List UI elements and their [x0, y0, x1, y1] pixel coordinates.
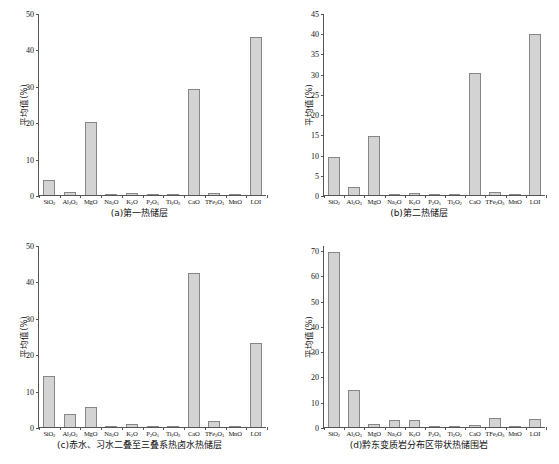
bar-slot: [60, 14, 81, 195]
bar-slot: [163, 246, 184, 427]
panel-caption-b: (b)第二热储层: [279, 206, 559, 219]
x-axis-label-MgO: MgO: [80, 430, 101, 437]
bar-slot: [101, 246, 122, 427]
x-axis-label-TFe2O3: TFe2O3: [485, 198, 505, 205]
bar-series-c: [39, 246, 266, 427]
bar-CaO: [469, 73, 481, 195]
bar-slot: [163, 14, 184, 195]
panel-caption-a: (a)第一热储层: [0, 206, 279, 219]
plot-area-b: 051015202530354045 SiO2Al2O3MgONa2OK2OP2…: [323, 14, 545, 196]
bar-K2O: [409, 420, 421, 427]
bar-slot: [225, 246, 246, 427]
plot-area-c: 01020304050 SiO2Al2O3MgONa2OK2OP2O5Ti2O2…: [38, 246, 266, 428]
x-axis-label-LOI: LOI: [245, 430, 266, 437]
bar-series-b: [324, 14, 545, 195]
x-axis-label-K2O: K2O: [122, 430, 143, 437]
y-tick-label: 40: [311, 322, 319, 331]
y-tick-label: 20: [311, 111, 319, 120]
x-axis-label-TFe2O3: TFe2O3: [204, 198, 225, 205]
x-axis-label-LOI: LOI: [525, 430, 545, 437]
y-tick-label: 30: [26, 82, 34, 91]
y-tick-label: 10: [311, 151, 319, 160]
bar-slot: [344, 246, 364, 427]
bar-slot: [324, 14, 344, 195]
y-tick-label: 30: [311, 348, 319, 357]
bar-slot: [245, 14, 266, 195]
x-axis-label-Na2O: Na2O: [101, 430, 122, 437]
panel-caption-c: (c)赤水、习水二叠至三叠系热卤水热储层: [0, 438, 279, 451]
x-axis-label-TFe2O3: TFe2O3: [204, 430, 225, 437]
bar-Al2O3: [348, 187, 360, 195]
bar-slot: [344, 14, 364, 195]
bar-slot: [384, 246, 404, 427]
bar-LOI: [529, 419, 541, 427]
y-tick-label: 50: [26, 242, 34, 251]
y-tick-label: 50: [311, 297, 319, 306]
bar-Al2O3: [348, 390, 360, 427]
plot-area-d: 010203040506070 SiO2Al2O3MgONa2OK2OP2O5T…: [323, 246, 545, 428]
bar-MgO: [85, 407, 97, 427]
x-tick-mark: [267, 195, 268, 198]
x-axis-label-MnO: MnO: [505, 198, 525, 205]
x-axis-label-LOI: LOI: [245, 198, 266, 205]
y-tick-label: 20: [26, 351, 34, 360]
y-tick-label: 70: [311, 247, 319, 256]
y-tick-label: 0: [315, 424, 319, 433]
bar-slot: [364, 246, 384, 427]
bar-slot: [505, 246, 525, 427]
bar-slot: [525, 14, 545, 195]
x-axis-label-SiO2: SiO2: [39, 430, 60, 437]
y-tick-label: 0: [30, 424, 34, 433]
bar-slot: [465, 246, 485, 427]
x-axis-label-K2O: K2O: [404, 430, 424, 437]
y-tick-label: 20: [311, 373, 319, 382]
x-axis-label-Na2O: Na2O: [384, 198, 404, 205]
bar-slot: [465, 14, 485, 195]
x-axis-label-CaO: CaO: [465, 198, 485, 205]
bar-SiO2: [328, 252, 340, 427]
y-tick-label: 10: [26, 155, 34, 164]
y-tick-label: 10: [26, 387, 34, 396]
x-axis-label-K2O: K2O: [404, 198, 424, 205]
bar-slot: [122, 246, 143, 427]
bar-slot: [183, 246, 204, 427]
y-tick-label: 20: [26, 119, 34, 128]
bar-slot: [445, 246, 465, 427]
y-tick-label: 60: [311, 272, 319, 281]
x-axis-label-MgO: MgO: [80, 198, 101, 205]
y-tick-label: 30: [311, 70, 319, 79]
bar-LOI: [529, 34, 541, 195]
x-axis-labels-c: SiO2Al2O3MgONa2OK2OP2O5Ti2O2CaOTFe2O3MnO…: [39, 430, 266, 437]
bar-series-d: [324, 246, 545, 427]
bar-LOI: [250, 37, 262, 195]
x-axis-label-LOI: LOI: [525, 198, 545, 205]
bar-series-a: [39, 14, 266, 195]
bar-slot: [204, 246, 225, 427]
x-axis-label-SiO2: SiO2: [39, 198, 60, 205]
bar-slot: [245, 246, 266, 427]
x-axis-label-SiO2: SiO2: [324, 430, 344, 437]
bar-MgO: [85, 122, 97, 195]
bar-CaO: [188, 273, 200, 427]
bar-slot: [404, 246, 424, 427]
bar-slot: [142, 246, 163, 427]
bar-slot: [80, 246, 101, 427]
chart-panel-b: 平均值(%) 051015202530354045 SiO2Al2O3MgONa…: [279, 0, 559, 232]
chart-panel-c: 平均值(%) 01020304050 SiO2Al2O3MgONa2OK2OP2…: [0, 232, 279, 464]
bar-slot: [364, 14, 384, 195]
x-axis-label-Ti2O2: Ti2O2: [163, 430, 184, 437]
bar-slot: [204, 14, 225, 195]
x-axis-labels-a: SiO2Al2O3MgONa2OK2OP2O5Ti2O2CaOTFe2O3MnO…: [39, 198, 266, 205]
bar-slot: [122, 14, 143, 195]
x-axis-label-MnO: MnO: [225, 430, 246, 437]
x-axis-label-K2O: K2O: [122, 198, 143, 205]
x-axis-labels-b: SiO2Al2O3MgONa2OK2OP2O5Ti2O2CaOTFe2O3MnO…: [324, 198, 545, 205]
bar-slot: [424, 14, 444, 195]
x-axis-label-P2O5: P2O5: [424, 430, 444, 437]
x-axis-label-Al2O3: Al2O3: [344, 198, 364, 205]
bar-MgO: [368, 136, 380, 195]
x-axis-label-P2O5: P2O5: [142, 198, 163, 205]
bar-Al2O3: [64, 414, 76, 427]
bar-LOI: [250, 343, 262, 427]
x-tick-mark: [546, 427, 547, 430]
